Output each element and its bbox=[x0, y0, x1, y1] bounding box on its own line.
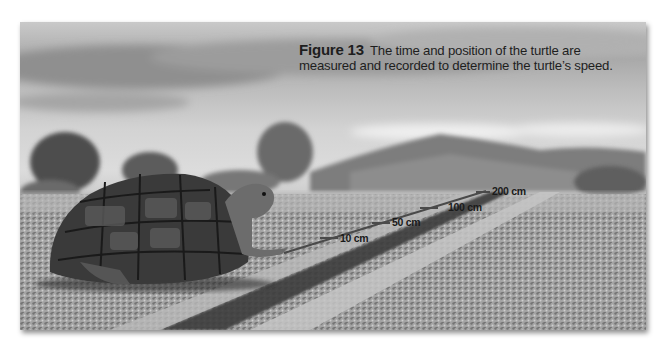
caption-line-1: The time and position of the turtle are bbox=[370, 43, 581, 58]
caption-line-2: measured and recorded to determine the t… bbox=[299, 58, 613, 73]
turtle-photo: Figure 13The time and position of the tu… bbox=[20, 22, 646, 330]
distance-label-200cm: 200 cm bbox=[492, 185, 526, 197]
figure-label: Figure 13 bbox=[299, 41, 364, 58]
distance-label-50cm: 50 cm bbox=[392, 216, 420, 228]
figure-caption: Figure 13The time and position of the tu… bbox=[299, 42, 644, 73]
distance-label-100cm: 100 cm bbox=[448, 201, 482, 213]
distance-label-10cm: 10 cm bbox=[340, 232, 368, 244]
